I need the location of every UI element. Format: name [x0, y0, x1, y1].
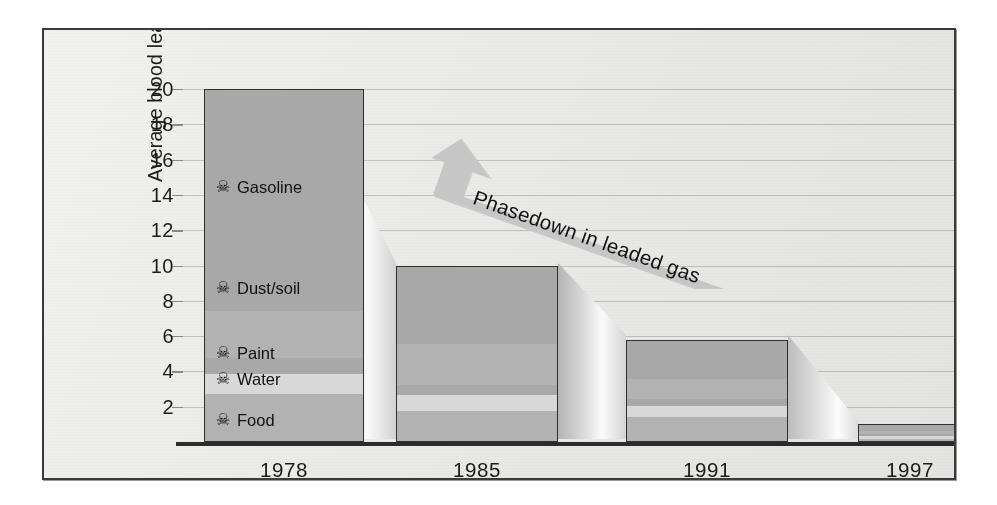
x-tick-label-1997: 1997: [828, 458, 956, 480]
bar-1991[interactable]: [626, 340, 788, 442]
segment-food: [627, 417, 787, 442]
legend-item-label: Gasoline: [237, 178, 302, 197]
segment-food: [397, 411, 557, 442]
segment-water: [397, 395, 557, 411]
phasedown-annotation: Phasedown in leaded gas: [410, 129, 880, 289]
segment-paint: [627, 399, 787, 406]
figure-frame: Average blood lead (µg/dl) 2468101214161…: [42, 28, 956, 480]
segment-water: [627, 406, 787, 417]
x-tick-label-1978: 1978: [174, 458, 394, 480]
x-tick-label-1985: 1985: [366, 458, 588, 480]
segment-dust-soil: [397, 344, 557, 385]
legend-item-food: ☠Food: [216, 411, 275, 430]
plot-area: Average blood lead (µg/dl) 2468101214161…: [158, 85, 956, 442]
segment-food: [859, 439, 956, 442]
segment-paint: [397, 385, 557, 396]
legend-item-gasoline: ☠Gasoline: [216, 178, 302, 197]
legend-item-label: Water: [237, 370, 280, 389]
bar-1997[interactable]: [858, 424, 956, 442]
legend-item-water: ☠Water: [216, 370, 280, 389]
legend-item-label: Food: [237, 411, 275, 430]
x-axis-line: [176, 442, 956, 446]
bar-1978[interactable]: [204, 89, 364, 442]
legend-item-paint: ☠Paint: [216, 344, 275, 363]
skull-and-crossbones-icon: ☠: [216, 412, 230, 428]
chart-figure: Average blood lead (µg/dl) 2468101214161…: [0, 0, 997, 505]
skull-and-crossbones-icon: ☠: [216, 179, 230, 195]
segment-dust-soil: [627, 379, 787, 398]
legend-item-dust-soil: ☠Dust/soil: [216, 279, 300, 298]
x-tick-label-1991: 1991: [596, 458, 818, 480]
legend-item-label: Dust/soil: [237, 279, 300, 298]
skull-and-crossbones-icon: ☠: [216, 371, 230, 387]
segment-gasoline: [627, 341, 787, 380]
bar-1985[interactable]: [396, 266, 558, 443]
skull-and-crossbones-icon: ☠: [216, 345, 230, 361]
skull-and-crossbones-icon: ☠: [216, 280, 230, 296]
legend-item-label: Paint: [237, 344, 275, 363]
